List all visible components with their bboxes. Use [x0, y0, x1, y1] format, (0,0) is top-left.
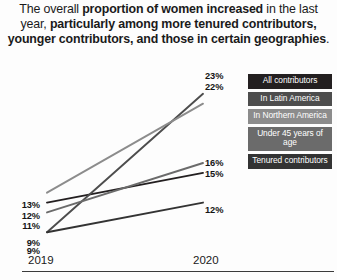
- legend-item-1[interactable]: In Latin America: [248, 92, 332, 107]
- headline-segment-1: proportion of women increased: [82, 2, 263, 16]
- chart-legend: All contributorsIn Latin AmericaIn North…: [248, 74, 332, 172]
- headline-segment-4: .: [326, 32, 329, 46]
- x-axis-tick-2019: 2019: [28, 254, 54, 266]
- headline-segment-3: particularly among more tenured contribu…: [8, 17, 326, 46]
- legend-item-label: In Latin America: [260, 93, 319, 103]
- data-label-left-under-45: 11%: [16, 221, 40, 231]
- data-label-right-tenured: 12%: [205, 205, 223, 215]
- data-label-right-under-45: 16%: [205, 158, 223, 168]
- data-label-right-all-contributors: 15%: [205, 169, 223, 179]
- line-series-1: [47, 94, 203, 232]
- headline-segment-0: The overall: [19, 2, 82, 16]
- legend-item-2[interactable]: In Northern America: [248, 109, 332, 124]
- data-label-right-northern-america: 22%: [205, 82, 223, 92]
- page-title: The overall proportion of women increase…: [6, 2, 331, 48]
- legend-item-label: In Northern America: [253, 110, 327, 120]
- line-series-3: [47, 163, 203, 212]
- legend-item-label: All contributors: [263, 75, 318, 85]
- line-series-2: [47, 104, 203, 193]
- data-label-left-all-contributors: 12%: [16, 211, 40, 221]
- legend-item-4[interactable]: Tenured contributors: [248, 154, 332, 169]
- x-axis-tick-2020: 2020: [193, 254, 219, 266]
- legend-item-3[interactable]: Under 45 years of age: [248, 127, 332, 151]
- legend-item-label: Tenured contributors: [252, 155, 327, 165]
- line-series-4: [47, 203, 203, 233]
- data-label-right-latin-america: 23%: [205, 71, 223, 81]
- legend-item-0[interactable]: All contributors: [248, 74, 332, 89]
- data-label-left-northern-america: 13%: [16, 200, 40, 210]
- x-axis-line: [22, 271, 334, 272]
- chart-page: The overall proportion of women increase…: [0, 0, 337, 280]
- legend-item-label: Under 45 years of age: [257, 128, 323, 148]
